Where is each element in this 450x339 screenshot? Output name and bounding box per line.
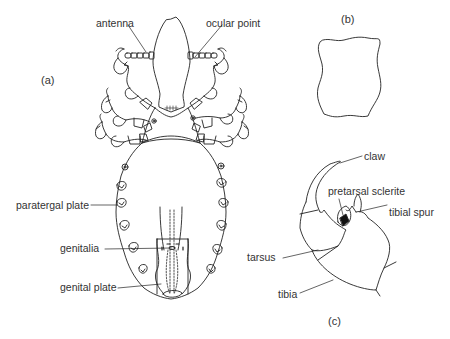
abdomen: [116, 136, 226, 299]
legs-right: [188, 48, 249, 147]
label-ocular-point: ocular point: [206, 18, 260, 29]
label-pretarsal-sclerite: pretarsal sclerite: [328, 186, 405, 197]
label-paratergal-plate: paratergal plate: [16, 200, 89, 211]
louse-body: [91, 17, 249, 299]
label-genitalia: genitalia: [60, 243, 99, 254]
legs-left: [95, 48, 155, 147]
label-tibia: tibia: [278, 289, 297, 300]
paratergal-plates-right: [207, 163, 228, 273]
antenna-left: [125, 52, 154, 59]
antenna-right: [188, 52, 217, 59]
label-antenna: antenna: [96, 18, 134, 29]
paratergal-plates-left: [117, 164, 147, 273]
label-tarsus: tarsus: [247, 252, 276, 263]
panel-label-c: (c): [328, 316, 341, 327]
head: [153, 17, 190, 112]
label-tibial-spur: tibial spur: [389, 207, 434, 218]
panel-label-b: (b): [341, 14, 354, 25]
sclerite-outline: [317, 37, 380, 117]
leader-lines-a: [91, 25, 222, 288]
label-genital-plate: genital plate: [60, 282, 117, 293]
label-claw: claw: [364, 151, 385, 162]
leg-detail: [283, 156, 396, 296]
panel-label-a: (a): [41, 75, 54, 86]
